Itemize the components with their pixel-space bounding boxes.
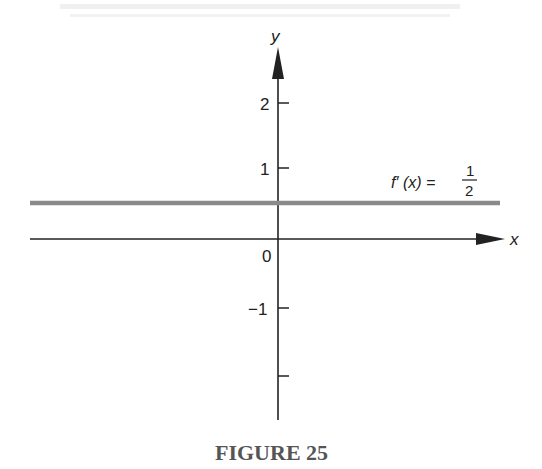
x-axis-label: x [509, 230, 519, 249]
tick-label-1: 1 [260, 160, 269, 179]
y-axis-label: y [270, 27, 281, 46]
x-axis-arrow-icon [476, 233, 505, 245]
figure-plot: y x 2 1 0 −1 f′ (x) = 1 2 FIGURE 25 [0, 0, 542, 469]
fraction-denominator: 2 [465, 182, 473, 199]
function-annotation: f′ (x) = 1 2 [391, 162, 477, 199]
tick-label-neg1: −1 [248, 300, 267, 319]
function-label: f′ (x) = [391, 174, 435, 191]
tick-label-2: 2 [260, 95, 269, 114]
y-axis-arrow-icon [272, 47, 284, 79]
bleed-text [60, 4, 460, 17]
figure-caption: FIGURE 25 [215, 440, 328, 465]
fraction-numerator: 1 [466, 162, 474, 179]
origin-label: 0 [262, 247, 271, 266]
